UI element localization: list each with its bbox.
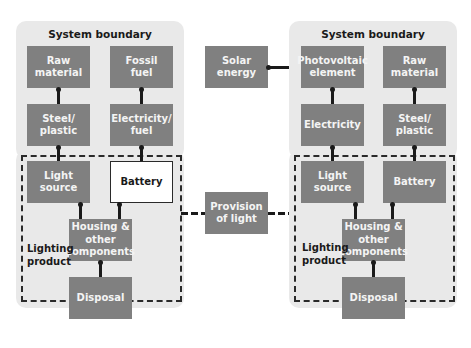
left-disposal-box: Disposal [69, 277, 132, 319]
left-battery-box: Battery [110, 161, 173, 203]
left-boundary-title: System boundary [16, 28, 184, 40]
connector-line [79, 205, 82, 219]
connector-line [372, 263, 375, 277]
right-housing-box: Housing & other components [342, 219, 405, 261]
connector-line [140, 148, 143, 161]
connector-line [57, 90, 60, 104]
connector-line [118, 205, 121, 219]
left-light-source-box: Light source [27, 161, 90, 203]
right-steel-plastic-box: Steel/ plastic [383, 104, 446, 146]
connector-line [99, 263, 102, 277]
right-lighting-product-label: Lighting product [302, 242, 349, 267]
connector-line [413, 90, 416, 104]
right-boundary-title: System boundary [289, 28, 457, 40]
connector-line [391, 205, 394, 219]
connector-line [331, 90, 334, 104]
right-light-source-box: Light source [301, 161, 364, 203]
right-battery-box: Battery [383, 161, 446, 203]
right-photovoltaic-box: Photovoltaic element [301, 46, 364, 88]
left-fossil-fuel-box: Fossil fuel [110, 46, 173, 88]
solar-to-pv-line [269, 66, 291, 69]
left-electricity-fuel-box: Electricity/ fuel [110, 104, 173, 146]
provision-of-light-box: Provision of light [205, 192, 268, 234]
left-raw-material-box: Raw material [27, 46, 90, 88]
left-housing-box: Housing & other components [69, 219, 132, 261]
left-product-to-provision-line [181, 212, 205, 215]
left-lighting-product-label: Lighting product [27, 243, 74, 268]
right-electricity-box: Electricity [301, 104, 364, 146]
right-raw-material-box: Raw material [383, 46, 446, 88]
left-steel-plastic-box: Steel/ plastic [27, 104, 90, 146]
solar-energy-box: Solar energy [205, 46, 268, 88]
connector-line [57, 148, 60, 161]
connector-line [331, 148, 334, 161]
connector-line [140, 90, 143, 104]
connector-line [413, 148, 416, 161]
connector-line [354, 205, 357, 219]
right-disposal-box: Disposal [342, 277, 405, 319]
